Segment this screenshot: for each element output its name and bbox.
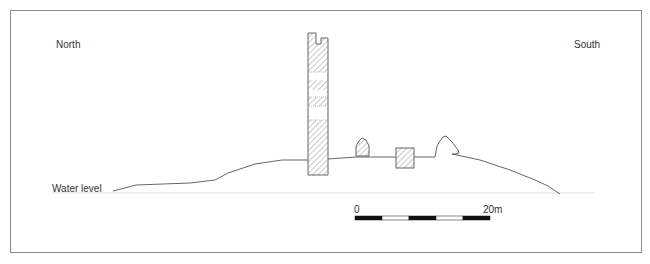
tower xyxy=(308,33,328,175)
profile-drawing xyxy=(0,0,650,264)
ground-profile-south xyxy=(452,154,560,194)
ground-profile-mid xyxy=(328,157,396,159)
square-block xyxy=(396,148,414,168)
ground-profile xyxy=(113,160,308,191)
small-ruin xyxy=(356,138,369,156)
scale-bar xyxy=(355,216,490,220)
tree-outline xyxy=(435,136,459,157)
